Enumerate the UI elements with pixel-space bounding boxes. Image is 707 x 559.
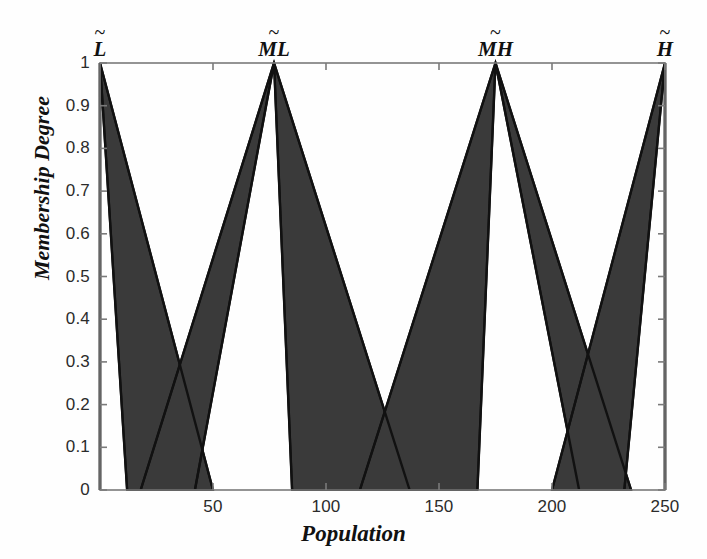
x-tick-label: 100: [312, 497, 341, 517]
y-tick-label: 0.7: [66, 181, 90, 201]
x-tick-label: 150: [425, 497, 454, 517]
set-label-h: ~H: [657, 27, 673, 60]
x-tick-label: 200: [538, 497, 567, 517]
x-tick-label: 250: [651, 497, 680, 517]
set-label-text: ML: [258, 37, 290, 61]
y-tick-label: 1: [80, 53, 90, 73]
y-tick-label: 0.2: [66, 395, 90, 415]
x-axis-title: Population: [0, 521, 707, 547]
y-tick-label: 0.1: [66, 437, 90, 457]
y-tick-label: 0.5: [66, 267, 90, 287]
y-tick-label: 0.6: [66, 224, 90, 244]
y-axis-title: Membership Degree: [29, 58, 55, 318]
set-label-text: L: [94, 37, 107, 61]
set-label-l: ~L: [94, 27, 107, 60]
fuzzy-membership-chart: 00.10.20.30.40.50.60.70.80.91 5010015020…: [0, 0, 707, 559]
footprint-of-uncertainty-group: [100, 63, 665, 490]
x-axis-tick-labels: 50100150200250: [0, 497, 707, 523]
plot-canvas: [0, 0, 707, 559]
y-tick-label: 0.8: [66, 138, 90, 158]
y-tick-label: 0.4: [66, 309, 90, 329]
set-label-ml: ~ML: [258, 27, 290, 60]
x-tick-label: 50: [203, 497, 222, 517]
fou-band-ml: [141, 63, 410, 490]
y-tick-label: 0.9: [66, 96, 90, 116]
y-tick-label: 0.3: [66, 352, 90, 372]
set-label-text: MH: [478, 37, 513, 61]
set-label-mh: ~MH: [478, 27, 513, 60]
set-label-text: H: [657, 37, 673, 61]
